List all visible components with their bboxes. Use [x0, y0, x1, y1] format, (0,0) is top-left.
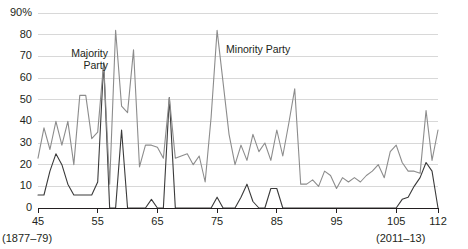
x-axis-tick-label: 95	[307, 216, 367, 227]
x-axis-ticks	[38, 208, 438, 213]
y-axis-tick-label: 90%	[10, 7, 32, 18]
chart-container: 90% 80 70 60 50 40 30 20 10 0 45 55 65 7…	[0, 0, 468, 249]
y-axis-tick-label: 40	[20, 115, 32, 126]
y-axis-tick-label: 70	[20, 50, 32, 61]
x-axis-tick-label: 85	[247, 216, 307, 227]
line-chart-plot	[0, 0, 468, 249]
majority-party-annotation-line1: Majority	[46, 48, 108, 60]
gridlines	[38, 13, 438, 186]
x-axis-tick-label: 55	[68, 216, 128, 227]
x-axis-tick-label: 65	[127, 216, 187, 227]
y-axis-tick-label: 20	[20, 159, 32, 170]
majority-party-annotation-line2: Party	[46, 60, 108, 72]
minority-party-annotation-line1: Minority Party	[226, 44, 290, 56]
x-axis-tick-label: 112	[408, 216, 468, 227]
y-axis-tick-label: 50	[20, 94, 32, 105]
x-axis-tick-label: 45	[8, 216, 68, 227]
x-axis-range-start-label: (1877–79)	[2, 233, 52, 244]
y-axis-tick-label: 30	[20, 137, 32, 148]
y-axis-tick-label: 80	[20, 29, 32, 40]
y-axis-tick-label: 10	[20, 180, 32, 191]
y-axis-tick-label: 60	[20, 72, 32, 83]
x-axis-range-end-label: (2011–13)	[376, 233, 425, 244]
x-axis-tick-label: 75	[187, 216, 247, 227]
majority-party-annotation: Majority Party	[46, 48, 108, 72]
y-axis-tick-label: 0	[26, 202, 32, 213]
minority-party-annotation: Minority Party	[226, 44, 290, 56]
